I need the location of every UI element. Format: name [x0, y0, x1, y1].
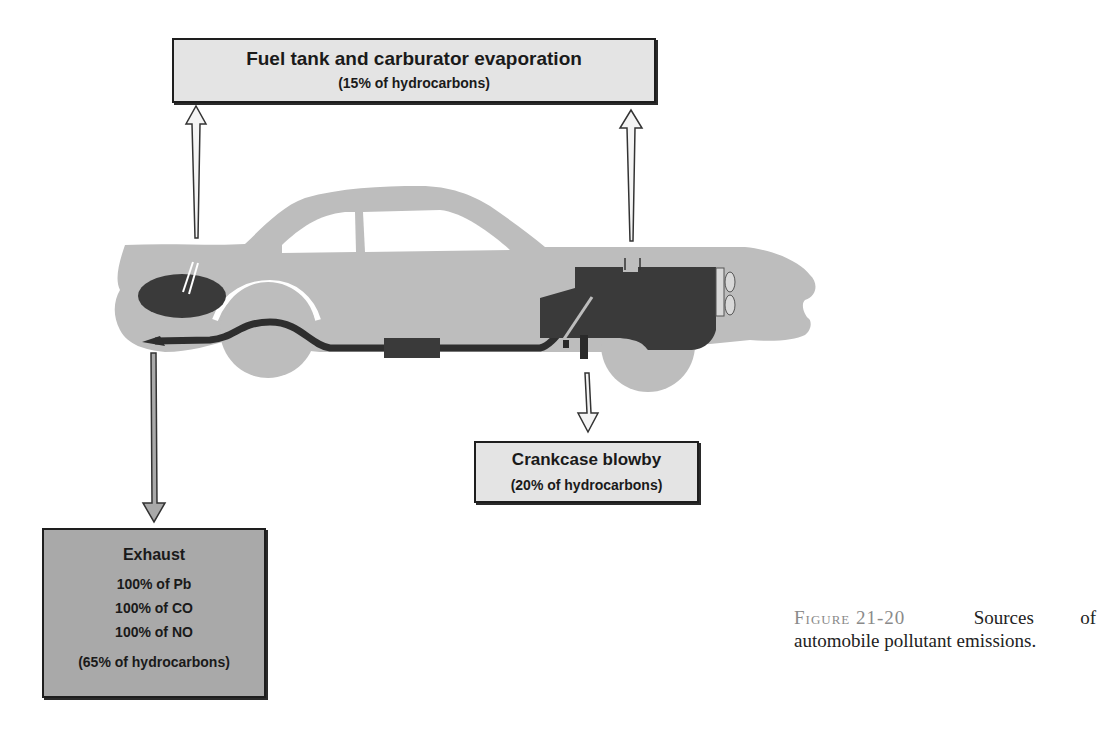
arrow-down-exhaust: [143, 353, 165, 522]
crankcase-blowby-box: Crankcase blowby (20% of hydrocarbons): [474, 441, 699, 503]
exhaust-line-no: 100% of NO: [44, 620, 264, 644]
figure-label: Figure 21-20: [794, 606, 905, 629]
exhaust-line-pb: 100% of Pb: [44, 572, 264, 596]
exhaust-title: Exhaust: [44, 542, 264, 568]
crankcase-subtitle: (20% of hydrocarbons): [476, 473, 697, 497]
caption-word: Sources: [974, 606, 1034, 629]
caption-line-2: automobile pollutant emissions.: [794, 629, 1096, 652]
arrow-up-fuel-tank: [186, 106, 206, 238]
exhaust-line-co: 100% of CO: [44, 596, 264, 620]
arrow-down-crankcase: [578, 373, 598, 432]
fuel-evaporation-subtitle: (15% of hydrocarbons): [174, 72, 654, 94]
crankcase-title: Crankcase blowby: [476, 447, 697, 473]
muffler: [384, 338, 440, 358]
fan-blade: [725, 272, 735, 292]
exhaust-box: Exhaust 100% of Pb 100% of CO 100% of NO…: [42, 528, 266, 698]
caption-word: of: [1080, 606, 1096, 629]
crankcase-vent: [580, 335, 588, 359]
fuel-tank: [138, 274, 226, 318]
radiator: [716, 268, 724, 316]
crankcase-vent-small: [563, 340, 569, 348]
exhaust-subtitle: (65% of hydrocarbons): [44, 650, 264, 674]
fuel-evaporation-title: Fuel tank and carburator evaporation: [174, 46, 654, 72]
figure-caption: Figure 21-20 Sources of automobile pollu…: [794, 606, 1096, 652]
fuel-evaporation-box: Fuel tank and carburator evaporation (15…: [172, 38, 656, 103]
fan-blade: [725, 295, 735, 315]
arrow-up-carburator: [620, 110, 642, 241]
